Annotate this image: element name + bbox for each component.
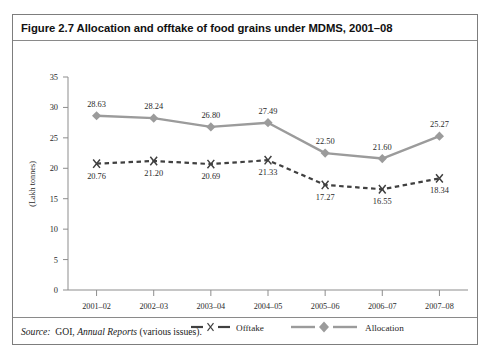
data-point-label: 18.34 xyxy=(430,186,450,195)
source-work-title: Annual Reports xyxy=(77,326,137,337)
y-tick-label: 20 xyxy=(50,164,58,173)
data-point-marker xyxy=(378,154,387,163)
chart-plot-area: 05101520253035 2001–022002–032003–042004… xyxy=(13,41,477,317)
data-point-label: 21.20 xyxy=(144,169,163,178)
data-point-label: 21.60 xyxy=(373,143,392,152)
data-point-label: 20.76 xyxy=(87,172,106,181)
data-point-label: 17.27 xyxy=(316,193,335,202)
x-axis-category-labels: 2001–022002–032003–042004–052005–062006–… xyxy=(82,302,454,311)
x-category-label: 2003–04 xyxy=(197,302,226,311)
y-axis-ticks xyxy=(63,77,68,290)
data-point-label: 20.69 xyxy=(201,172,220,181)
y-tick-label: 30 xyxy=(50,103,58,112)
data-point-marker xyxy=(321,148,330,157)
x-category-label: 2004–05 xyxy=(254,302,283,311)
source-separator xyxy=(13,317,477,318)
y-tick-label: 0 xyxy=(54,286,58,295)
x-category-label: 2002–03 xyxy=(139,302,168,311)
data-point-label: 22.50 xyxy=(316,137,335,146)
data-point-label: 27.49 xyxy=(259,107,278,116)
y-tick-label: 10 xyxy=(50,225,58,234)
series-offtake: 20.7621.2020.6921.3317.2716.5518.34 xyxy=(87,156,450,206)
y-tick-label: 5 xyxy=(54,256,58,265)
source-note: Source: GOI, Annual Reports (various iss… xyxy=(21,321,471,343)
series-allocation: 28.6328.2426.8027.4922.5021.6025.27 xyxy=(87,100,449,163)
data-point-marker xyxy=(206,122,215,131)
data-point-label: 28.63 xyxy=(87,100,106,109)
source-suffix: (various issues). xyxy=(140,326,202,337)
data-point-label: 21.33 xyxy=(259,168,278,177)
y-tick-label: 15 xyxy=(50,195,58,204)
data-point-label: 16.55 xyxy=(373,197,392,206)
y-tick-label: 25 xyxy=(50,134,58,143)
source-prefix: GOI, xyxy=(55,326,74,337)
x-category-label: 2006–07 xyxy=(368,302,397,311)
y-axis-title: (Lakh tonnes) xyxy=(28,161,37,207)
figure-container: Figure 2.7 Allocation and offtake of foo… xyxy=(12,14,478,345)
data-point-marker xyxy=(435,132,444,141)
line-chart-svg: 05101520253035 2001–022002–032003–042004… xyxy=(13,41,477,317)
data-point-marker xyxy=(149,114,158,123)
source-label: Source: xyxy=(21,326,50,337)
data-point-label: 25.27 xyxy=(430,120,449,129)
data-point-marker xyxy=(263,118,272,127)
x-category-label: 2005–06 xyxy=(311,302,340,311)
x-category-label: 2007–08 xyxy=(425,302,454,311)
x-category-label: 2001–02 xyxy=(82,302,111,311)
y-axis-tick-labels: 05101520253035 xyxy=(50,73,58,295)
data-point-label: 26.80 xyxy=(201,111,220,120)
y-tick-label: 35 xyxy=(50,73,58,82)
figure-title: Figure 2.7 Allocation and offtake of foo… xyxy=(13,15,477,41)
data-point-label: 28.24 xyxy=(144,102,164,111)
data-point-marker xyxy=(92,111,101,120)
x-axis-ticks xyxy=(97,290,440,296)
